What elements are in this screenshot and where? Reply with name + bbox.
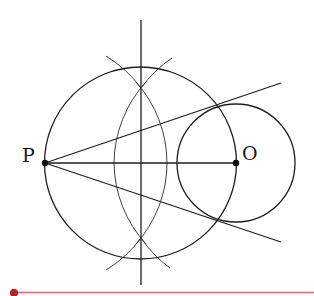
label-o: O bbox=[242, 142, 258, 164]
arc-centered-o-lower-tail bbox=[141, 238, 170, 268]
arc-centered-o-upper-tail bbox=[141, 58, 172, 88]
point-p bbox=[42, 160, 48, 166]
point-o bbox=[233, 160, 239, 166]
geometry-diagram: P O bbox=[0, 0, 314, 296]
label-p: P bbox=[22, 144, 35, 166]
divider-dot bbox=[10, 289, 18, 296]
tangent-line-lower bbox=[45, 163, 281, 242]
